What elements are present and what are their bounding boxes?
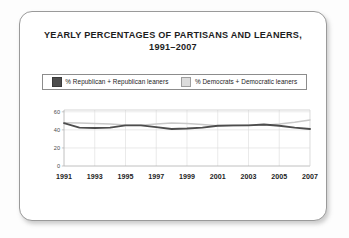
chart-title: YEARLY PERCENTAGES OF PARTISANS AND LEAN… <box>20 29 326 54</box>
chart-title-line-2: 1991–2007 <box>20 41 326 53</box>
chart-card: YEARLY PERCENTAGES OF PARTISANS AND LEAN… <box>19 11 327 221</box>
svg-text:1993: 1993 <box>87 173 103 181</box>
legend-item-republican: % Republican + Republican leaners <box>52 77 169 87</box>
legend-swatch-republican <box>52 77 62 87</box>
legend-label-democrat: % Democrats + Democratic leaners <box>195 78 297 86</box>
legend-item-democrat: % Democrats + Democratic leaners <box>181 77 297 87</box>
plot-area: 0204060 19911993199519971999200120032005… <box>20 104 326 190</box>
svg-text:40: 40 <box>54 127 60 133</box>
axis-lines <box>62 110 310 166</box>
svg-text:1991: 1991 <box>56 173 72 181</box>
legend-swatch-democrat <box>181 77 191 87</box>
y-tick-labels: 0204060 <box>54 109 60 169</box>
svg-text:1997: 1997 <box>148 173 164 181</box>
grid-lines <box>64 110 310 166</box>
chart-title-line-1: YEARLY PERCENTAGES OF PARTISANS AND LEAN… <box>20 29 326 41</box>
svg-text:2001: 2001 <box>210 173 226 181</box>
line-chart-svg: 0204060 19911993199519971999200120032005… <box>20 104 328 190</box>
figure-root: YEARLY PERCENTAGES OF PARTISANS AND LEAN… <box>0 0 349 238</box>
svg-text:2003: 2003 <box>241 173 257 181</box>
svg-text:60: 60 <box>54 109 60 115</box>
svg-text:2005: 2005 <box>271 173 287 181</box>
svg-text:20: 20 <box>54 145 60 151</box>
svg-text:1999: 1999 <box>179 173 195 181</box>
legend-label-republican: % Republican + Republican leaners <box>65 78 168 86</box>
svg-text:1995: 1995 <box>118 173 134 181</box>
x-tick-labels: 199119931995199719992001200320052007 <box>56 173 318 181</box>
svg-text:0: 0 <box>57 163 60 169</box>
chart-legend: % Republican + Republican leaners % Demo… <box>42 74 307 90</box>
svg-text:2007: 2007 <box>302 173 318 181</box>
